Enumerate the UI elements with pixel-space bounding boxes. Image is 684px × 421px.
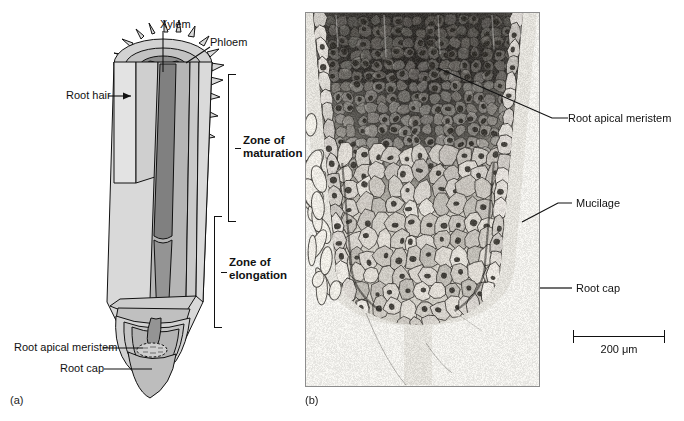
panel-b-micrograph: Root apical meristem Mucilage Root cap 2… (290, 0, 684, 421)
scale-bar-line (573, 336, 665, 337)
panel-a-identifier: (a) (10, 394, 23, 406)
zone-elongation-line2: elongation (229, 269, 287, 281)
zone-elongation-line1: Zone of (229, 256, 271, 268)
panel-a-root-diagram: Xylem Phloem Root hair Root apical meris… (0, 0, 300, 421)
bracket-zone-of-maturation (228, 74, 236, 222)
scale-bar-cap-right (664, 330, 665, 343)
scale-bar-cap-left (573, 330, 574, 343)
label-xylem: Xylem (160, 18, 191, 31)
label-root-apical-meristem-photo: Root apical meristem (568, 112, 671, 125)
label-mucilage: Mucilage (576, 197, 620, 210)
label-phloem: Phloem (210, 36, 247, 49)
label-root-hair: Root hair (66, 89, 111, 102)
scale-bar-label: 200 μm (573, 343, 665, 355)
figure-root-tip-anatomy: Xylem Phloem Root hair Root apical meris… (0, 0, 684, 421)
panel-a-leader-lines (0, 0, 300, 421)
label-root-cap: Root cap (60, 362, 104, 375)
bracket-zone-of-elongation (214, 216, 222, 328)
label-zone-of-elongation: Zone of elongation (229, 256, 289, 282)
zone-maturation-line1: Zone of (243, 134, 285, 146)
panel-b-identifier: (b) (305, 394, 318, 406)
label-root-cap-photo: Root cap (576, 282, 620, 295)
scale-bar: 200 μm (573, 328, 665, 360)
label-root-apical-meristem: Root apical meristem (14, 341, 117, 354)
